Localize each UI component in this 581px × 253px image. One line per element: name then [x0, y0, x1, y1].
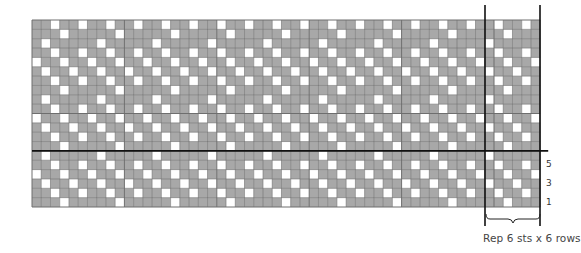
repeat-brace-icon [486, 214, 540, 223]
chart-cell [134, 123, 143, 132]
chart-cell [69, 67, 78, 76]
chart-cell [522, 123, 531, 132]
chart-cell [420, 132, 429, 141]
chart-cell [429, 95, 438, 104]
chart-cell [78, 151, 87, 160]
chart-cell [439, 142, 448, 151]
chart-cell [152, 170, 161, 179]
chart-cell [97, 170, 106, 179]
chart-cell [152, 160, 161, 169]
chart-cell [346, 188, 355, 197]
chart-cell [50, 29, 59, 38]
chart-cell [466, 198, 475, 207]
chart-cell [161, 198, 170, 207]
chart-cell [226, 132, 235, 141]
chart-cell [503, 48, 512, 57]
chart-cell [171, 188, 180, 197]
chart-cell [143, 188, 152, 197]
chart-cell [32, 76, 41, 85]
chart-cell [161, 188, 170, 197]
chart-cell [318, 85, 327, 94]
chart-cell [476, 142, 485, 151]
chart-cell [466, 132, 475, 141]
chart-cell [402, 95, 411, 104]
chart-cell [115, 20, 124, 29]
chart-cell [32, 123, 41, 132]
chart-cell [180, 160, 189, 169]
chart-cell [263, 95, 272, 104]
chart-cell [402, 85, 411, 94]
chart-cell [365, 123, 374, 132]
chart-cell [217, 76, 226, 85]
chart-cell [328, 95, 337, 104]
chart-cell [263, 170, 272, 179]
chart-cell [50, 132, 59, 141]
chart-cell [420, 57, 429, 66]
chart-cell [272, 179, 281, 188]
chart-cell [208, 76, 217, 85]
chart-cell [355, 20, 364, 29]
chart-cell [272, 95, 281, 104]
chart-cell [355, 114, 364, 123]
chart-cell [402, 188, 411, 197]
chart-cell [124, 67, 133, 76]
chart-cell [328, 132, 337, 141]
chart-cell [309, 39, 318, 48]
chart-cell [235, 188, 244, 197]
chart-cell [60, 57, 69, 66]
chart-cell [355, 132, 364, 141]
chart-cell [503, 29, 512, 38]
chart-cell [115, 132, 124, 141]
chart-cell [476, 151, 485, 160]
chart-cell [337, 57, 346, 66]
chart-cell [485, 39, 494, 48]
chart-cell [309, 188, 318, 197]
chart-cell [281, 160, 290, 169]
chart-cell [383, 132, 392, 141]
chart-cell [198, 179, 207, 188]
chart-cell [291, 151, 300, 160]
chart-cell [291, 39, 300, 48]
chart-cell [411, 188, 420, 197]
chart-cell [392, 20, 401, 29]
chart-cell [152, 48, 161, 57]
chart-cell [318, 160, 327, 169]
chart-cell [439, 39, 448, 48]
chart-cell [281, 132, 290, 141]
chart-cell [78, 76, 87, 85]
chart-cell [97, 104, 106, 113]
chart-cell [69, 20, 78, 29]
chart-cell [392, 95, 401, 104]
chart-cell [226, 39, 235, 48]
chart-cell [217, 48, 226, 57]
chart-cell [346, 39, 355, 48]
chart-cell [152, 85, 161, 94]
chart-cell [318, 48, 327, 57]
chart-cell [245, 29, 254, 38]
chart-cell [60, 123, 69, 132]
chart-cell [106, 85, 115, 94]
chart-cell [522, 20, 531, 29]
chart-cell [217, 132, 226, 141]
chart-cell [171, 85, 180, 94]
chart-cell [161, 76, 170, 85]
chart-cell [346, 123, 355, 132]
chart-cell [374, 123, 383, 132]
chart-cell [383, 76, 392, 85]
chart-cell [217, 188, 226, 197]
chart-cell [466, 29, 475, 38]
chart-cell [115, 48, 124, 57]
chart-cell [420, 142, 429, 151]
chart-cell [106, 132, 115, 141]
chart-cell [291, 95, 300, 104]
chart-cell [494, 114, 503, 123]
chart-cell [245, 76, 254, 85]
chart-cell [97, 198, 106, 207]
chart-cell [494, 29, 503, 38]
chart-cell [411, 104, 420, 113]
chart-cell [522, 95, 531, 104]
chart-cell [402, 142, 411, 151]
chart-cell [50, 85, 59, 94]
chart-cell [402, 160, 411, 169]
chart-cell [32, 179, 41, 188]
